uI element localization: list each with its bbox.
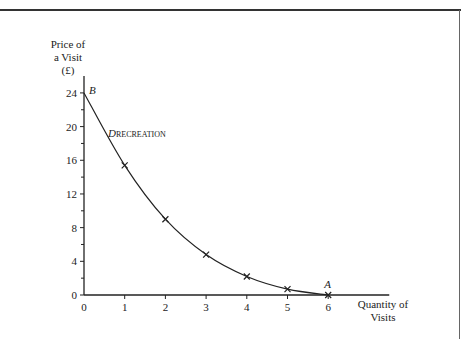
series-label-subscript: RECREATION bbox=[116, 130, 166, 139]
demand-chart: 048121620240123456DRECREATIONBA bbox=[0, 0, 461, 339]
x-tick-label: 1 bbox=[122, 301, 128, 313]
y-tick-label: 8 bbox=[72, 222, 78, 234]
x-tick-label: 5 bbox=[285, 301, 291, 313]
data-point-marker bbox=[244, 273, 250, 279]
x-tick-label: 6 bbox=[325, 301, 331, 313]
point-b-label: B bbox=[89, 84, 96, 96]
x-tick-label: 0 bbox=[81, 301, 87, 313]
x-tick-label: 4 bbox=[244, 301, 250, 313]
y-tick-label: 4 bbox=[72, 255, 78, 267]
y-tick-label: 24 bbox=[66, 87, 78, 99]
demand-curve bbox=[84, 93, 328, 295]
y-tick-label: 0 bbox=[72, 289, 78, 301]
data-point-marker bbox=[203, 252, 209, 258]
x-tick-label: 2 bbox=[163, 301, 169, 313]
series-label: DRECREATION bbox=[107, 127, 166, 139]
y-tick-label: 20 bbox=[66, 121, 78, 133]
x-tick-label: 3 bbox=[203, 301, 209, 313]
data-point-marker bbox=[122, 162, 128, 168]
data-point-marker bbox=[162, 216, 168, 222]
y-tick-label: 16 bbox=[66, 154, 78, 166]
y-tick-label: 12 bbox=[66, 188, 77, 200]
point-a-label: A bbox=[323, 278, 331, 290]
